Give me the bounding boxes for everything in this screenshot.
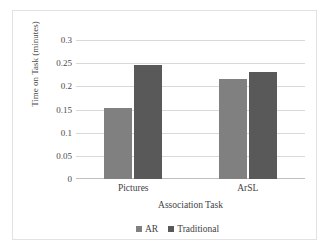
- legend-label: AR: [145, 224, 158, 234]
- square-marker-icon: [168, 226, 174, 232]
- bar-traditional-pictures: [134, 65, 162, 179]
- chart-legend: ARTraditional: [25, 224, 329, 234]
- y-axis-tick-label: 0.15: [32, 106, 72, 115]
- x-axis-tick-labels: PicturesArSL: [76, 183, 305, 199]
- plot-area: [76, 40, 305, 179]
- bar-chart-figure: Time on Task (minutes) 0.30.250.20.150.1…: [0, 0, 329, 250]
- y-axis-tick-label: 0.25: [32, 59, 72, 68]
- y-axis-tick-labels: 0.30.250.20.150.10.050: [31, 40, 72, 179]
- legend-entry[interactable]: Traditional: [168, 224, 219, 234]
- y-axis-tick-label: 0.1: [32, 129, 72, 138]
- y-axis-tick-label: 0: [32, 175, 72, 184]
- gridline: [76, 63, 305, 64]
- y-axis-tick-label: 0.3: [32, 36, 72, 45]
- chart-frame: Time on Task (minutes) 0.30.250.20.150.1…: [12, 10, 317, 240]
- x-axis-tick-label: ArSL: [198, 183, 298, 193]
- square-marker-icon: [136, 226, 142, 232]
- legend-label: Traditional: [177, 224, 219, 234]
- gridline: [76, 40, 305, 41]
- y-axis-tick-label: 0.05: [32, 152, 72, 161]
- legend-entry[interactable]: AR: [136, 224, 158, 234]
- bar-traditional-arsl: [249, 72, 277, 179]
- bar-ar-arsl: [219, 79, 247, 179]
- x-axis-tick-label: Pictures: [83, 183, 183, 193]
- x-axis-title: Association Task: [76, 200, 305, 210]
- bar-ar-pictures: [104, 108, 132, 179]
- y-axis-tick-label: 0.2: [32, 82, 72, 91]
